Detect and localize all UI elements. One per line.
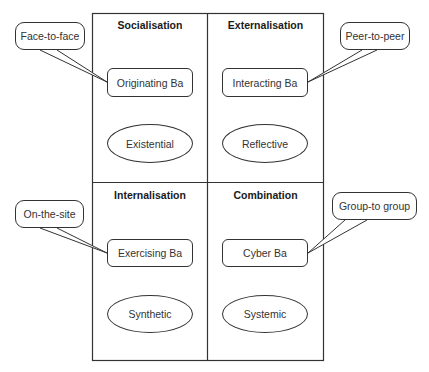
box-interacting-ba: Interacting Ba (222, 68, 308, 97)
box-exercising-ba: Exercising Ba (107, 239, 193, 267)
tail-group-to-group (308, 220, 367, 253)
ellipse-synthetic: Synthetic (107, 295, 193, 333)
callout-group-to-group: Group-to group (332, 192, 417, 220)
tail-peer-to-peer (308, 50, 377, 82)
tail-on-the-site (40, 228, 107, 253)
box-cyber-ba: Cyber Ba (222, 239, 308, 267)
callout-face-to-face: Face-to-face (15, 22, 85, 50)
callout-peer-to-peer: Peer-to-peer (340, 22, 410, 50)
tail-face-to-face (40, 50, 107, 82)
heading-externalisation: Externalisation (208, 14, 323, 36)
ellipse-reflective: Reflective (222, 124, 308, 163)
heading-combination: Combination (208, 184, 323, 206)
ellipse-systemic: Systemic (222, 295, 308, 333)
callout-on-the-site: On-the-site (15, 200, 84, 228)
ellipse-existential: Existential (107, 124, 193, 163)
heading-internalisation: Internalisation (93, 184, 207, 206)
heading-socialisation: Socialisation (93, 14, 207, 36)
box-originating-ba: Originating Ba (107, 68, 193, 97)
